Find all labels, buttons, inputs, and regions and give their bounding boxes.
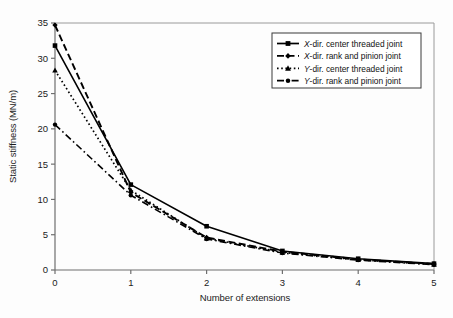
y-tick-label: 20	[37, 123, 48, 134]
legend-label: X-dir. rank and pinion joint	[303, 51, 402, 61]
y-tick-label: 5	[43, 229, 48, 240]
y-tick-label: 15	[37, 159, 48, 170]
x-tick-label: 0	[52, 277, 57, 288]
data-point-marker	[286, 41, 291, 46]
data-point-marker	[53, 122, 57, 126]
legend-label: Y-dir. center threaded joint	[304, 64, 403, 74]
chart-figure: Static stiffness (MN/m) Number of extens…	[0, 0, 453, 318]
x-tick-label: 2	[204, 277, 209, 288]
x-tick-label: 5	[431, 277, 436, 288]
data-point-marker	[432, 263, 436, 267]
legend-label: X-dir. center threaded joint	[303, 39, 403, 49]
y-tick-label: 0	[43, 264, 48, 275]
y-tick-label: 35	[37, 17, 48, 28]
series-4	[53, 122, 436, 266]
y-tick-label: 30	[37, 53, 48, 64]
data-point-marker	[53, 43, 58, 48]
legend-layer: X-dir. center threaded jointX-dir. rank …	[272, 33, 421, 88]
data-point-marker	[129, 182, 134, 187]
x-tick-label: 4	[356, 277, 361, 288]
y-tick-label: 10	[37, 194, 48, 205]
data-point-marker	[204, 224, 209, 229]
y-tick-label: 25	[37, 88, 48, 99]
data-point-marker	[52, 67, 58, 72]
data-point-marker	[356, 258, 360, 262]
x-tick-label: 1	[128, 277, 133, 288]
data-point-marker	[204, 237, 208, 241]
series-3	[52, 67, 437, 266]
x-tick-label: 3	[280, 277, 285, 288]
data-point-marker	[280, 251, 284, 255]
data-point-marker	[129, 193, 133, 197]
data-point-marker	[286, 78, 291, 83]
legend-label: Y-dir. rank and pinion joint	[304, 76, 402, 86]
series-line	[55, 70, 434, 264]
plot-canvas: 05101520253035012345 X-dir. center threa…	[0, 0, 453, 318]
